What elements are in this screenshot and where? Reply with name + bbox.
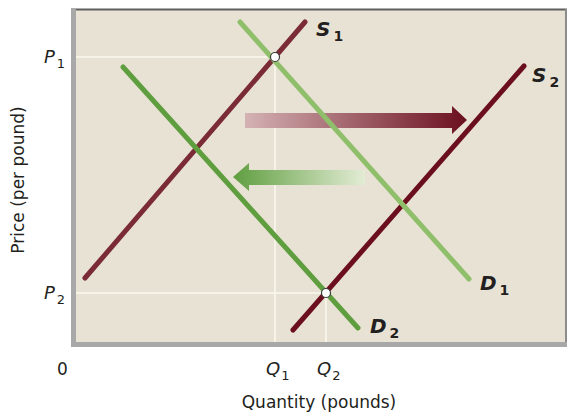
supply-demand-chart: S1S2D1D2 P1P2 Q1Q2 0 Quantity (pounds) P… xyxy=(0,0,576,416)
x-axis-title: Quantity (pounds) xyxy=(242,392,397,412)
y-tick-labels: P1P2 xyxy=(44,46,65,307)
x-tick-labels: Q1Q2 xyxy=(266,358,340,383)
y-axis-title: Price (per pound) xyxy=(8,106,28,253)
origin-label: 0 xyxy=(57,359,68,379)
x-axis xyxy=(71,342,567,347)
q2-tick-label: Q2 xyxy=(317,358,340,383)
e1-equilibrium-point xyxy=(271,53,280,62)
p1-tick-label: P1 xyxy=(44,46,65,71)
y-axis xyxy=(71,9,76,347)
p2-tick-label: P2 xyxy=(44,282,65,307)
e2-equilibrium-point xyxy=(322,289,331,298)
q1-tick-label: Q1 xyxy=(266,358,289,383)
